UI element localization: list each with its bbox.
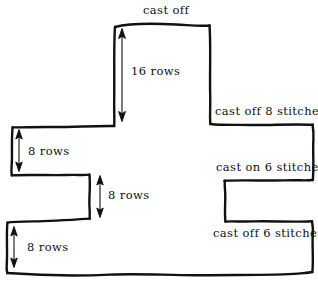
dimension-arrow-bottom-arm-height [11,227,17,268]
knitting-schematic-diagram: cast off 16 rows cast off 8 stitches 8 r… [0,0,318,284]
label-left-arm-height: 8 rows [28,145,70,158]
label-cast-off-6-stitches: cast off 6 stitches [213,227,318,240]
left-arm-left-edge [11,127,12,175]
left-arm-bottom-edge [12,175,90,176]
left-notch-inner-edge [89,175,90,219]
dimension-arrow-neck-height [119,29,126,122]
bottom-left-arm-left-edge [7,223,8,273]
body-bottom-edge [7,272,312,275]
label-middle-gap-height: 8 rows [108,189,150,202]
neck-top-edge [115,24,210,27]
right-arm-bottom-edge [225,180,313,181]
body-top-right-edge [210,124,312,125]
label-cast-off-top: cast off [143,4,189,17]
right-notch-inner-edge [225,181,226,222]
label-cast-on-6-stitches: cast on 6 stitches [216,161,318,174]
label-cast-off-8-stitches: cast off 8 stitches [215,105,318,118]
neck-left-edge [114,27,115,126]
dimension-arrow-left-arm-height [16,130,22,172]
body-top-left-edge [13,126,115,127]
label-neck-height: 16 rows [131,65,180,78]
dimension-arrow-middle-gap-height [97,176,103,218]
neck-right-edge [210,26,211,125]
left-notch-bottom-edge [7,219,89,223]
label-bottom-arm-height: 8 rows [27,241,69,254]
